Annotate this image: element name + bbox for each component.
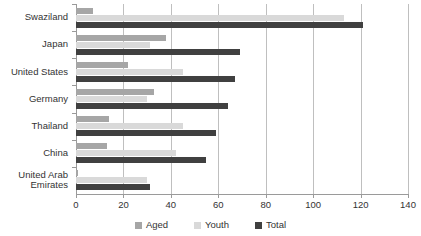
bar-group (76, 167, 408, 194)
bar-group (76, 113, 408, 140)
x-tick-100 (313, 194, 314, 198)
category-label: United States (0, 67, 68, 78)
bar-aged (76, 143, 107, 149)
dependency-ratio-bar-chart: SwazilandJapanUnited StatesGermanyThaila… (0, 0, 421, 236)
x-tick-80 (266, 194, 267, 198)
bar-total (76, 103, 228, 109)
x-tick-label-140: 140 (400, 199, 416, 211)
bar-rows (76, 4, 408, 194)
bar-youth (76, 15, 344, 21)
bar-group (76, 140, 408, 167)
category-axis-labels: SwazilandJapanUnited StatesGermanyThaila… (0, 4, 74, 194)
legend-swatch-icon (194, 222, 201, 229)
x-tick-120 (361, 194, 362, 198)
x-tick-0 (76, 194, 77, 198)
bar-youth (76, 96, 147, 102)
bar-group (76, 31, 408, 58)
bar-aged (76, 89, 154, 95)
chart-legend: AgedYouthTotal (0, 218, 421, 232)
category-label: Japan (0, 39, 68, 50)
bar-aged (76, 35, 166, 41)
bar-youth (76, 177, 147, 183)
x-tick-label-20: 20 (118, 199, 129, 211)
legend-label: Youth (205, 220, 229, 230)
legend-item-total[interactable]: Total (255, 220, 286, 230)
bar-total (76, 157, 206, 163)
legend-item-aged[interactable]: Aged (135, 220, 168, 230)
legend-item-youth[interactable]: Youth (194, 220, 229, 230)
bar-total (76, 22, 363, 28)
legend-swatch-icon (255, 222, 262, 229)
bar-youth (76, 150, 176, 156)
category-label: Swaziland (0, 12, 68, 23)
x-tick-20 (123, 194, 124, 198)
category-label: China (0, 148, 68, 159)
plot-area (76, 4, 408, 194)
bar-youth (76, 69, 183, 75)
gridline-140 (408, 4, 409, 194)
bar-youth (76, 123, 183, 129)
legend-label: Total (266, 220, 286, 230)
x-tick-40 (171, 194, 172, 198)
bar-group (76, 58, 408, 85)
x-tick-label-40: 40 (166, 199, 177, 211)
x-tick-60 (218, 194, 219, 198)
category-label: Thailand (0, 121, 68, 132)
x-tick-label-60: 60 (213, 199, 224, 211)
bar-youth (76, 42, 150, 48)
x-tick-label-120: 120 (353, 199, 369, 211)
bar-aged (76, 8, 93, 14)
x-tick-label-80: 80 (260, 199, 271, 211)
bar-total (76, 76, 235, 82)
bar-group (76, 85, 408, 112)
bar-aged (76, 170, 78, 176)
bar-total (76, 130, 216, 136)
legend-label: Aged (146, 220, 168, 230)
bar-total (76, 49, 240, 55)
category-label: Germany (0, 94, 68, 105)
bar-aged (76, 116, 109, 122)
legend-swatch-icon (135, 222, 142, 229)
bar-aged (76, 62, 128, 68)
x-tick-label-0: 0 (73, 199, 78, 211)
x-tick-label-100: 100 (305, 199, 321, 211)
category-label: United Arab Emirates (0, 170, 68, 191)
bar-group (76, 4, 408, 31)
x-axis-tick-labels: 020406080100120140 (0, 199, 421, 213)
bar-total (76, 184, 150, 190)
x-tick-140 (408, 194, 409, 198)
